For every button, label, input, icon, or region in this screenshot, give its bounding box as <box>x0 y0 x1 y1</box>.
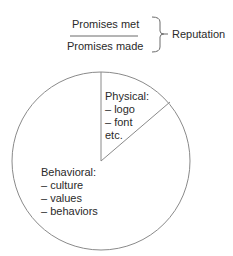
physical-slice-label: Physical: – logo – font etc. <box>105 90 149 142</box>
behavioral-slice-label: Behavioral: – culture – values – behavio… <box>41 166 98 218</box>
reputation-label: Reputation <box>172 28 225 41</box>
curly-brace <box>152 17 164 52</box>
numerator-label: Promises met <box>72 18 139 31</box>
denominator-label: Promises made <box>67 40 143 53</box>
